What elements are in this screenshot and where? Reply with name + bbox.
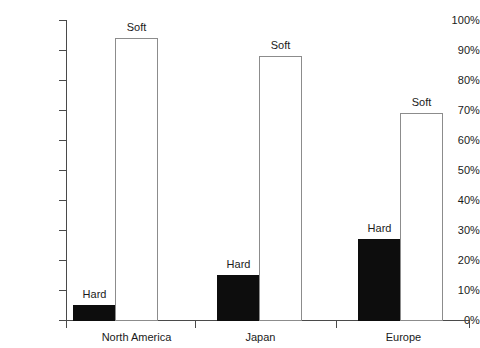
- y-axis-tick-40: [59, 200, 66, 201]
- y-axis-tick-80: [59, 80, 66, 81]
- y-axis-tick-30: [59, 230, 66, 231]
- bar-hard-europe: [358, 239, 401, 321]
- bar-soft-north-america: [115, 38, 158, 321]
- bar-chart: 100% 90% 80% 70% 60% 50% 40% 30% 20% 10%…: [0, 0, 480, 348]
- y-axis-label-80: 80%: [426, 75, 480, 86]
- y-axis-line: [66, 20, 67, 321]
- bar-soft-japan: [259, 56, 302, 321]
- bar-label-soft-japan: Soft: [249, 39, 312, 51]
- x-axis-tick-sep-2: [336, 321, 337, 328]
- y-axis-label-100: 100%: [426, 15, 480, 26]
- y-axis-tick-0: [59, 320, 66, 321]
- y-axis-tick-20: [59, 260, 66, 261]
- y-axis-tick-70: [59, 110, 66, 111]
- bar-hard-north-america: [73, 305, 116, 321]
- x-axis-tick-start: [66, 321, 67, 328]
- bar-soft-europe: [400, 113, 443, 321]
- bar-hard-japan: [217, 275, 260, 321]
- x-axis-category-europe: Europe: [347, 331, 460, 343]
- x-axis-category-japan: Japan: [204, 331, 317, 343]
- y-axis-tick-60: [59, 140, 66, 141]
- y-axis-tick-100: [59, 20, 66, 21]
- bar-label-soft-north-america: Soft: [105, 21, 168, 33]
- bar-label-soft-europe: Soft: [390, 96, 453, 108]
- x-axis-category-north-america: North America: [55, 331, 218, 343]
- y-axis-tick-90: [59, 50, 66, 51]
- y-axis-label-90: 90%: [426, 45, 480, 56]
- x-axis-tick-sep-1: [195, 321, 196, 328]
- x-axis-tick-end: [469, 321, 470, 328]
- y-axis-tick-50: [59, 170, 66, 171]
